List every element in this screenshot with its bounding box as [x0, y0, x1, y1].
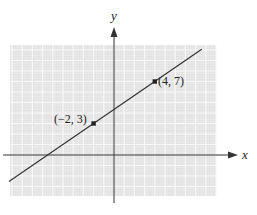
coordinate-plane-figure: y x (−2, 3) (4, 7) [0, 0, 257, 215]
point-label-b: (4, 7) [158, 75, 184, 87]
plot-canvas [0, 0, 257, 215]
x-axis-label: x [242, 148, 248, 161]
y-axis-label: y [111, 9, 117, 22]
point-label-a: (−2, 3) [54, 113, 87, 125]
grid-background [10, 45, 216, 196]
